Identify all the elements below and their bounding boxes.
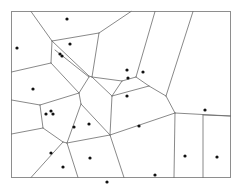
plot-frame-border: [12, 12, 231, 178]
voronoi-seed-point: [65, 17, 68, 20]
voronoi-seed-point: [49, 109, 52, 112]
voronoi-seed-point: [44, 112, 47, 115]
voronoi-seed-point: [137, 124, 140, 127]
voronoi-seed-point: [87, 122, 90, 125]
voronoi-seed-point: [125, 94, 128, 97]
voronoi-seed-point: [60, 54, 63, 57]
voronoi-canvas: [0, 0, 242, 192]
voronoi-seed-point: [203, 108, 206, 111]
voronoi-seed-point: [15, 46, 18, 49]
voronoi-seed-point: [72, 125, 75, 128]
voronoi-seed-point: [125, 68, 128, 71]
voronoi-seed-point: [183, 154, 186, 157]
voronoi-seed-point: [141, 70, 144, 73]
voronoi-seed-point: [215, 155, 218, 158]
voronoi-seed-point: [88, 156, 91, 159]
voronoi-seed-point: [61, 165, 64, 168]
voronoi-seed-point: [68, 42, 71, 45]
voronoi-seed-point: [105, 180, 108, 183]
voronoi-figure: [0, 0, 242, 192]
voronoi-seed-point: [126, 76, 129, 79]
voronoi-seed-point: [49, 151, 52, 154]
voronoi-seed-point: [153, 173, 156, 176]
voronoi-seed-point: [51, 112, 54, 115]
voronoi-seed-point: [31, 87, 34, 90]
